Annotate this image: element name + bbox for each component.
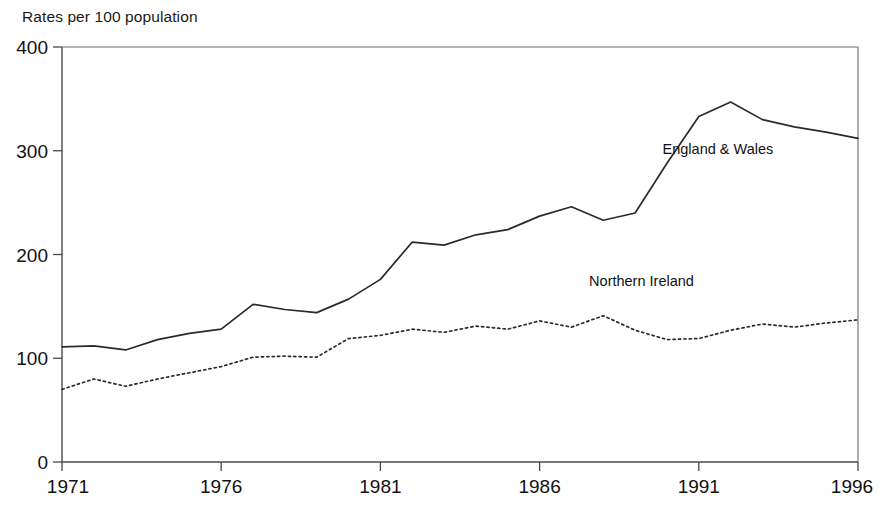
y-tick-label: 0	[37, 452, 48, 473]
plot-area: 0100200300400197119761981198619911996 En…	[0, 0, 882, 511]
plot-frame	[62, 47, 858, 462]
series-line-northern-ireland	[62, 316, 858, 390]
x-tick-label: 1971	[47, 476, 89, 497]
series-line-england-wales	[62, 102, 858, 350]
england-wales-label: England & Wales	[663, 141, 774, 157]
northern-ireland-label: Northern Ireland	[589, 273, 694, 289]
line-chart: Rates per 100 population 010020030040019…	[0, 0, 882, 511]
x-tick-label: 1996	[831, 476, 873, 497]
y-tick-label: 400	[16, 37, 48, 58]
x-tick-label: 1991	[678, 476, 720, 497]
x-tick-label: 1986	[518, 476, 560, 497]
y-tick-label: 300	[16, 141, 48, 162]
x-tick-label: 1976	[200, 476, 242, 497]
series-annotations-layer: England & WalesNorthern Ireland	[589, 141, 773, 289]
axes-layer	[53, 47, 858, 471]
y-tick-label: 100	[16, 348, 48, 369]
y-tick-label: 200	[16, 245, 48, 266]
tick-labels-layer: 0100200300400197119761981198619911996	[16, 37, 873, 497]
x-tick-label: 1981	[359, 476, 401, 497]
